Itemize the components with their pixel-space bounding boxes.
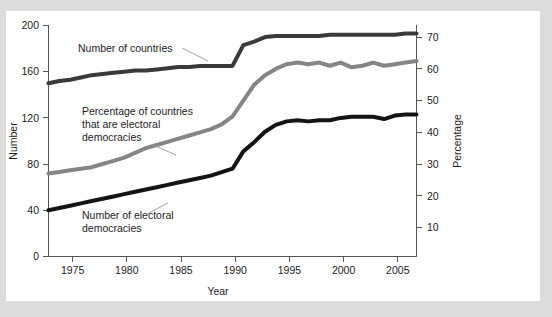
annotation-line: Number of countries [78,42,173,54]
y-tick-label-40: 40 [27,204,39,216]
x-axis-title: Year [207,285,229,297]
leader-line-number-of-countries [182,48,208,61]
leader-line-percentage-electoral-democracies [153,145,176,155]
x-tick-label-2005: 2005 [386,264,410,276]
x-tick-label-1980: 1980 [115,264,139,276]
y-tick-label-120: 120 [21,112,39,124]
line-chart: 200 160 120 80 40 0 70 60 50 40 30 20 10 [0,0,552,317]
y-tick-label-160: 160 [21,65,39,77]
annotation-line: Number of electoral [82,209,174,221]
y2-tick-label-30: 30 [427,158,439,170]
y-tick-label-0: 0 [33,250,39,262]
y-axis-title-right: Percentage [451,114,463,168]
x-tick-label-1985: 1985 [169,264,193,276]
y2-tick-label-40: 40 [427,126,439,138]
figure-container: 200 160 120 80 40 0 70 60 50 40 30 20 10 [0,0,552,317]
y-axis-title-left: Number [7,122,19,160]
annotation-number-of-electoral-democracies: Number of electoral democracies [82,209,177,234]
x-tick-label-2000: 2000 [332,264,356,276]
y-tick-label-200: 200 [21,19,39,31]
y2-tick-label-60: 60 [427,63,439,75]
y2-tick-label-10: 10 [427,221,439,233]
y-axis-right-ticks: 70 60 50 40 30 20 10 [417,31,439,233]
annotation-number-of-countries: Number of countries [78,42,173,54]
y2-tick-label-50: 50 [427,94,439,106]
x-axis-ticks: 1975 1980 1985 1990 1995 2000 2005 [61,257,410,277]
y2-tick-label-20: 20 [427,190,439,202]
annotation-line: democracies [82,131,142,143]
annotation-line: that are electoral [82,118,160,130]
y2-tick-label-70: 70 [427,31,439,43]
x-tick-label-1975: 1975 [61,264,85,276]
annotation-line: Percentage of countries [82,105,193,117]
y-axis-left-ticks: 200 160 120 80 40 0 [21,19,48,262]
x-tick-label-1990: 1990 [224,264,248,276]
x-tick-label-1995: 1995 [278,264,302,276]
y-tick-label-80: 80 [27,158,39,170]
annotation-line: democracies [82,222,142,234]
